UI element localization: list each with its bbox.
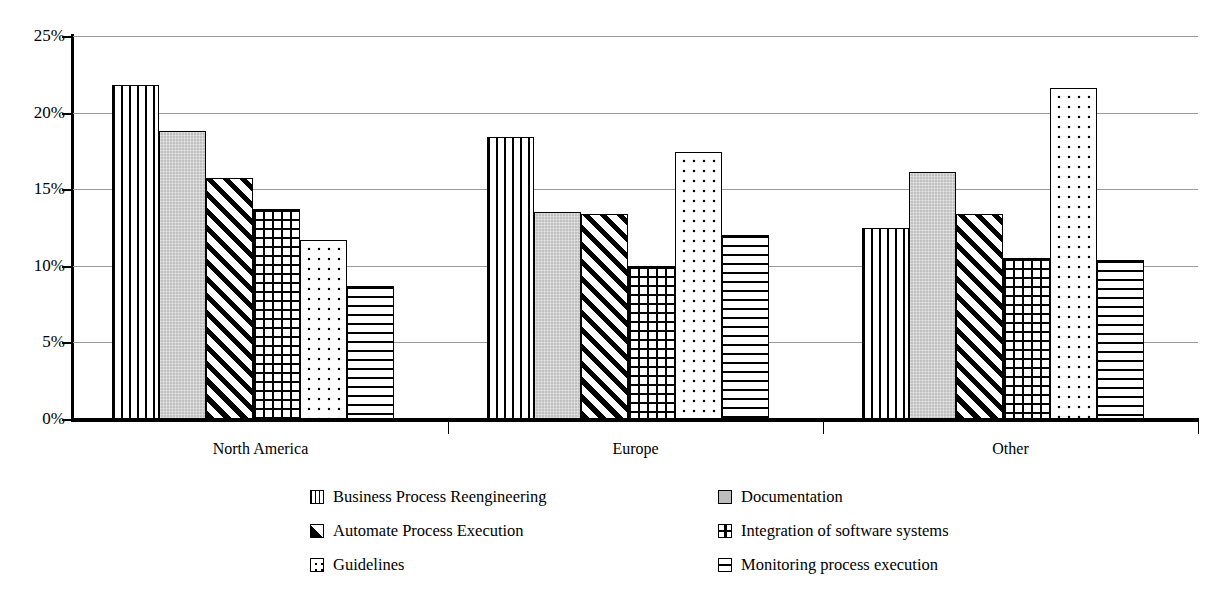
diagonal-hatch-swatch xyxy=(310,524,324,538)
x-axis-separator xyxy=(823,421,824,434)
legend-item[interactable]: Monitoring process execution xyxy=(718,548,949,582)
bar xyxy=(534,212,581,419)
legend-column-left: Business Process ReengineeringAutomate P… xyxy=(310,480,547,582)
dots-swatch xyxy=(310,558,324,572)
y-axis-tick-label: 10% xyxy=(9,257,65,274)
bar xyxy=(675,152,722,419)
horizontal-lines-swatch xyxy=(718,558,732,572)
vertical-lines-swatch xyxy=(310,490,324,504)
bar xyxy=(722,235,769,419)
bar xyxy=(1097,260,1144,419)
gridline xyxy=(73,113,1198,114)
category-label: Other xyxy=(901,440,1121,458)
y-axis-tick-label: 25% xyxy=(9,27,65,44)
category-label: Europe xyxy=(526,440,746,458)
x-axis-end-tick xyxy=(1198,421,1199,434)
bar xyxy=(628,266,675,419)
legend-item[interactable]: Documentation xyxy=(718,480,949,514)
bar xyxy=(347,286,394,419)
legend-item-label: Monitoring process execution xyxy=(741,556,938,574)
legend-item[interactable]: Business Process Reengineering xyxy=(310,480,547,514)
legend-item-label: Business Process Reengineering xyxy=(333,488,547,506)
x-axis-line-thin xyxy=(71,421,1199,422)
solid-gray-swatch xyxy=(718,490,732,504)
legend-item-label: Integration of software systems xyxy=(741,522,949,540)
bar xyxy=(862,228,909,420)
bar xyxy=(1050,88,1097,419)
bar xyxy=(909,172,956,419)
category-label: North America xyxy=(151,440,371,458)
legend: Business Process ReengineeringAutomate P… xyxy=(300,480,940,590)
grid-swatch xyxy=(718,524,732,538)
bar xyxy=(956,214,1003,419)
legend-item[interactable]: Integration of software systems xyxy=(718,514,949,548)
y-axis-tick-label: 15% xyxy=(9,180,65,197)
legend-item[interactable]: Automate Process Execution xyxy=(310,514,547,548)
y-axis-tick-label: 0% xyxy=(9,410,65,427)
y-axis-tick-label: 20% xyxy=(9,104,65,121)
bar xyxy=(112,85,159,419)
plot-area xyxy=(73,36,1198,419)
legend-column-right: DocumentationIntegration of software sys… xyxy=(718,480,949,582)
bar xyxy=(253,209,300,419)
bar xyxy=(581,214,628,419)
bar-chart: 0%5%10%15%20%25% North AmericaEuropeOthe… xyxy=(0,0,1229,604)
y-axis-tick-label: 5% xyxy=(9,333,65,350)
bar xyxy=(300,240,347,419)
bar xyxy=(159,131,206,419)
legend-item[interactable]: Guidelines xyxy=(310,548,547,582)
legend-item-label: Guidelines xyxy=(333,556,405,574)
gridline xyxy=(73,36,1198,37)
legend-item-label: Automate Process Execution xyxy=(333,522,524,540)
bar xyxy=(1003,258,1050,419)
legend-item-label: Documentation xyxy=(741,488,843,506)
bar xyxy=(487,137,534,419)
bar xyxy=(206,178,253,419)
x-axis-separator xyxy=(448,421,449,434)
